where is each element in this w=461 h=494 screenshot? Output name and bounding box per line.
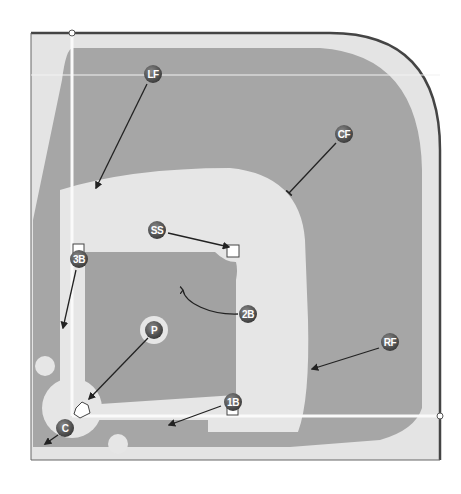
right-foul-pole [437,413,443,419]
position-marker-ss: SS [148,221,166,239]
on-deck-circle-right [108,434,128,454]
position-marker-2b: 2B [239,305,257,323]
on-deck-circle-left [35,356,55,376]
position-marker-p: P [145,321,163,339]
position-marker-3b: 3B [70,250,88,268]
position-marker-lf: LF [144,65,162,83]
marker-label: C [62,423,69,434]
position-marker-cf: CF [335,125,353,143]
marker-label: LF [147,69,159,80]
marker-label: RF [384,337,397,348]
marker-label: SS [151,225,164,236]
marker-label: P [151,325,158,336]
marker-label: 3B [73,254,85,265]
position-marker-1b: 1B [224,393,242,411]
marker-label: 2B [242,309,254,320]
position-marker-c: C [56,419,74,437]
position-marker-rf: RF [381,333,399,351]
marker-label: 1B [227,397,239,408]
left-foul-pole [69,30,75,36]
marker-label: CF [338,129,351,140]
baseball-field-diagram: LFCFSS3B2BPRF1BC [0,0,461,494]
